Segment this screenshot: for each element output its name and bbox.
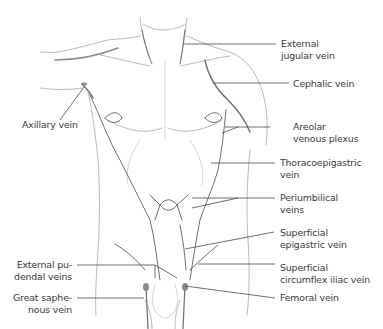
- leader-axillary: [60, 87, 84, 120]
- label-superficial-circumflex-iliac-vein: Superficial circumflex iliac vein: [280, 262, 370, 286]
- leader-external-pudendal: [77, 265, 177, 278]
- label-superficial-epigastric-vein: Superficial epigastric vein: [280, 227, 347, 251]
- label-external-jugular-vein: External jugular vein: [281, 38, 335, 62]
- label-external-pudendal-veins: External pu- dendal veins: [8, 259, 72, 283]
- leader-superficial-epigastric: [185, 232, 274, 249]
- veins: [82, 30, 250, 329]
- label-areolar-venous-plexus: Areolar venous plexus: [293, 121, 358, 145]
- label-femoral-vein: Femoral vein: [280, 292, 339, 304]
- label-axillary-vein: Axillary vein: [22, 119, 78, 131]
- label-cephalic-vein: Cephalic vein: [293, 78, 354, 90]
- label-periumbilical-veins: Periumbilical veins: [280, 192, 338, 216]
- label-thoracoepigastric-vein: Thoracoepigastric vein: [280, 157, 362, 181]
- leader-areolar: [222, 127, 270, 133]
- label-great-saphenous-vein: Great saphe- nous vein: [8, 292, 72, 316]
- leader-femoral: [185, 286, 275, 298]
- body-outline: [40, 18, 267, 329]
- anatomy-figure: External jugular vein Cephalic vein Axil…: [0, 0, 383, 329]
- leader-lines: [60, 44, 289, 298]
